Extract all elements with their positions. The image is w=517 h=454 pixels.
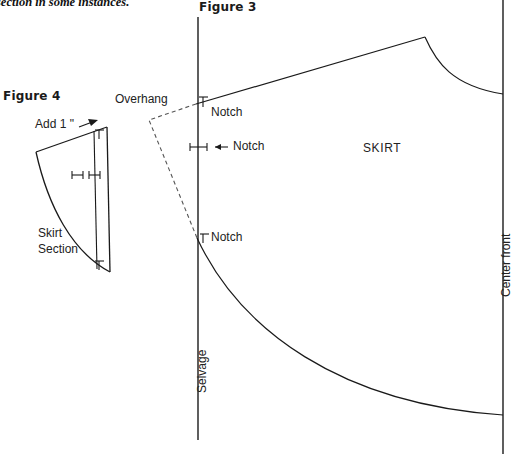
notch-lower-mark: [200, 234, 209, 243]
figure4-added-seam-line: [94, 131, 97, 269]
figure4-piece-label-line1: Skirt: [38, 227, 62, 239]
overhang-label: Overhang: [115, 93, 168, 105]
figure4-right-edge: [107, 127, 110, 272]
notch-lower-label: Notch: [211, 231, 242, 243]
notch-middle-arrow: [215, 144, 228, 150]
skirt-hem-curve: [197, 238, 503, 415]
overhang-dashed-outline: [149, 104, 197, 238]
figure4-piece-label-line2: Section: [38, 243, 78, 255]
figure3-heading: Figure 3: [199, 1, 257, 13]
running-body-text-clip: section in some instances.: [0, 0, 517, 14]
skirt-top-edge: [196, 37, 425, 104]
skirt-top-curve: [425, 37, 503, 94]
center-front-label: Center front: [500, 234, 512, 297]
running-body-text: section in some instances.: [0, 0, 129, 9]
add-one-inch-label: Add 1 ": [35, 118, 74, 130]
figure4-add-arrow: [79, 119, 98, 127]
selvage-label: Selvage: [196, 350, 208, 393]
pattern-line-art: [0, 0, 517, 454]
figure4-width-marks: [72, 171, 100, 179]
notch-top-label: Notch: [211, 106, 242, 118]
notch-top-mark: [199, 97, 208, 107]
notch-middle-label: Notch: [233, 140, 264, 152]
skirt-piece-label: SKIRT: [363, 142, 401, 154]
figure4-heading: Figure 4: [3, 90, 61, 102]
illustration-page: section in some instances. Figure 3 Figu…: [0, 0, 517, 454]
